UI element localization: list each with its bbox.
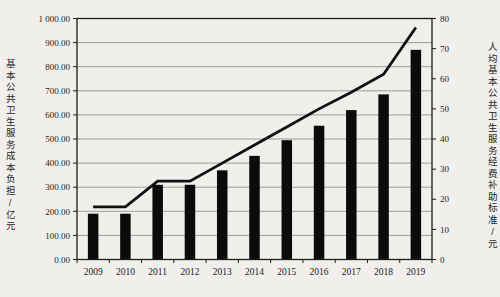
right-axis-title: 人均基本公共卫生服务经费补助标准/元 xyxy=(488,42,498,250)
x-axis-category-label: 2017 xyxy=(342,267,361,277)
x-axis-category-label: 2010 xyxy=(116,267,135,277)
bar-2015 xyxy=(282,140,293,259)
left-axis-tick-label: 300.00 xyxy=(45,182,70,192)
x-axis-category-label: 2011 xyxy=(148,267,167,277)
right-axis-tick-label: 80 xyxy=(440,14,450,24)
left-axis-tick-label: 700.00 xyxy=(45,86,70,96)
bar-2012 xyxy=(185,185,196,260)
left-axis-tick-label: 1 000.00 xyxy=(39,14,71,24)
bar-2011 xyxy=(152,185,163,260)
chart-canvas: 0.00100.00200.00300.00400.00500.00600.00… xyxy=(0,0,500,297)
x-axis-category-label: 2018 xyxy=(374,267,393,277)
bar-2009 xyxy=(88,214,99,260)
bar-2017 xyxy=(346,110,357,259)
right-axis-tick-label: 70 xyxy=(440,44,450,54)
bar-2013 xyxy=(217,170,228,259)
left-axis-tick-label: 900.00 xyxy=(45,38,70,48)
right-axis-tick-label: 30 xyxy=(440,164,450,174)
left-axis-title: 基本公共卫生服务成本负担/亿元 xyxy=(5,59,15,233)
x-axis-category-label: 2019 xyxy=(406,267,425,277)
left-axis-tick-label: 0.00 xyxy=(54,255,70,265)
left-axis-tick-label: 600.00 xyxy=(45,110,70,120)
left-axis-tick-label: 400.00 xyxy=(45,158,70,168)
chart-figure: 基本公共卫生服务成本负担/亿元 0.00100.00200.00300.0040… xyxy=(0,0,500,297)
bar-2010 xyxy=(120,214,131,260)
x-axis-category-label: 2016 xyxy=(310,267,329,277)
x-axis-category-label: 2009 xyxy=(84,267,103,277)
x-axis-category-label: 2015 xyxy=(277,267,296,277)
left-axis-tick-label: 200.00 xyxy=(45,207,70,217)
bar-2016 xyxy=(314,126,325,260)
right-axis-tick-label: 10 xyxy=(440,225,450,235)
bar-2014 xyxy=(249,156,260,260)
right-axis-tick-label: 20 xyxy=(440,194,450,204)
left-axis-tick-label: 800.00 xyxy=(45,62,70,72)
left-axis-tick-label: 500.00 xyxy=(45,134,70,144)
left-axis-tick-label: 100.00 xyxy=(45,231,70,241)
x-axis-category-label: 2013 xyxy=(213,267,232,277)
right-axis-tick-label: 0 xyxy=(440,255,445,265)
x-axis-category-label: 2012 xyxy=(180,267,199,277)
bar-2018 xyxy=(378,94,389,259)
right-axis-tick-label: 40 xyxy=(440,134,450,144)
right-axis-tick-label: 60 xyxy=(440,74,450,84)
right-axis-tick-label: 50 xyxy=(440,104,450,114)
bar-2019 xyxy=(411,50,422,260)
x-axis-category-label: 2014 xyxy=(245,267,264,277)
